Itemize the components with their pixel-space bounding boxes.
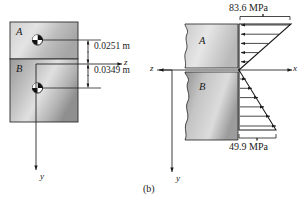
brace-49-9-mpa — [239, 134, 276, 141]
x-axis-label-right: x — [293, 64, 297, 73]
centroid-marker-a — [32, 35, 42, 45]
z-axis-label-left: z — [124, 58, 128, 67]
y-axis-label-left: y — [40, 172, 44, 181]
brace-83-6-mpa — [240, 14, 290, 20]
centroid-marker-b — [32, 83, 42, 93]
dimension-label-0349: 0.0349 m — [94, 66, 130, 76]
region-b-block-right — [183, 72, 239, 140]
y-axis-label-right: y — [176, 174, 180, 183]
figure-caption: (b) — [143, 184, 155, 194]
stress-label-49-9-mpa: 49.9 MPa — [229, 142, 268, 152]
dimension-label-0251: 0.0251 m — [94, 42, 130, 52]
z-axis-label-right: z — [150, 64, 154, 73]
region-a-block-right — [183, 24, 239, 68]
region-b-label-left: B — [16, 64, 22, 75]
region-b-label-right: B — [199, 82, 205, 93]
region-a-label-right: A — [199, 36, 205, 47]
compression-stress-arrows — [241, 25, 290, 62]
compression-stress-triangle — [239, 24, 291, 70]
tension-stress-arrows — [240, 79, 276, 126]
stress-label-83-6-mpa: 83.6 MPa — [229, 3, 268, 13]
figure-b-root — [0, 0, 306, 203]
region-a-label-left: A — [16, 27, 22, 38]
right-stress-diagram — [157, 14, 292, 172]
